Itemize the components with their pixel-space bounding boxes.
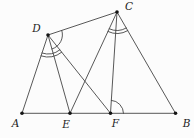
point-label-E: E (61, 118, 70, 130)
point-dot-layer (20, 10, 177, 115)
figure-canvas: A E F B D C (0, 0, 194, 138)
angle-CFB-arc-1 (111, 100, 123, 113)
segment-CF (111, 12, 118, 113)
point-dot-A (20, 112, 24, 116)
segment-DE (48, 35, 70, 113)
angle-ADF-arc-2 (41, 52, 62, 57)
segment-EC (70, 12, 117, 113)
point-dot-E (68, 112, 72, 116)
segment-DC (48, 12, 117, 35)
segment-AD (22, 35, 48, 113)
point-dot-F (109, 112, 113, 116)
point-label-D: D (31, 22, 41, 34)
geometry-figure: A E F B D C (0, 0, 194, 138)
segment-layer (22, 12, 176, 113)
point-label-B: B (182, 117, 191, 129)
point-dot-D (46, 33, 50, 37)
point-label-C: C (125, 0, 133, 12)
segment-CB (117, 12, 176, 113)
point-label-A: A (11, 117, 20, 129)
angle-ADF-arc-1 (42, 50, 60, 54)
point-dot-C (115, 10, 119, 14)
point-label-F: F (111, 117, 120, 129)
angle-ECB-arc-1 (109, 28, 126, 30)
point-dot-B (174, 112, 178, 116)
